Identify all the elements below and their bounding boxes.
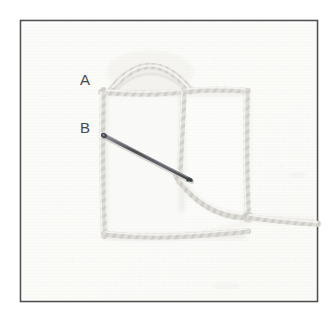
- right-vertical-thread: [244, 91, 248, 216]
- stitch-diagram-figure: A B: [0, 0, 336, 312]
- label-b-text: B: [80, 119, 90, 136]
- label-a-text: A: [80, 71, 90, 88]
- label-a: A: [80, 71, 90, 88]
- left-vertical-thread: [100, 90, 104, 236]
- stitch-photograph: A B: [0, 0, 336, 312]
- label-b: B: [80, 119, 90, 136]
